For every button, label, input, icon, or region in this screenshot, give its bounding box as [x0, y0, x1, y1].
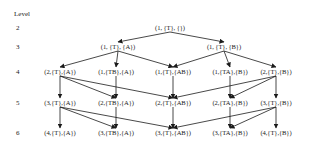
transition-arrow [60, 76, 116, 98]
transition-arrow [118, 32, 170, 42]
state-node: (1,{TA},{B}) [212, 68, 247, 76]
transition-arrow [116, 51, 118, 67]
state-node: (4,{T},{A}) [44, 129, 75, 137]
transition-arrow [60, 76, 173, 98]
transition-arrow [60, 107, 116, 128]
transition-arrow [118, 51, 173, 67]
state-node: (1, {T}, {A}) [101, 43, 135, 51]
state-node: (3,{T},{A}) [44, 99, 75, 107]
state-node: (1, {T}, {}) [155, 24, 185, 32]
state-node: (2,{T},{A}) [44, 68, 75, 76]
state-node: (2,{T},{B}) [261, 68, 292, 76]
state-node: (1,{T},{AB}) [155, 68, 191, 76]
state-node: (2,{TA},{B}) [212, 99, 247, 107]
state-node: (3,{TB},{A}) [98, 129, 134, 137]
transition-arrow [224, 51, 276, 67]
state-node: (2,{TB},{A}) [98, 99, 134, 107]
state-node: (2,{T},{AB}) [155, 99, 191, 107]
state-node: (1,{TB},{A}) [98, 68, 134, 76]
transition-arrow [60, 107, 173, 128]
transition-arrow [224, 51, 230, 67]
transition-arrow [230, 107, 276, 128]
transition-arrow [60, 51, 118, 67]
state-node: (3,{T},{B}) [261, 99, 292, 107]
state-node: (1, {T}, {B}) [207, 43, 241, 51]
state-node: (3,{T},{AB}) [155, 129, 191, 137]
state-node: (3,{TA},{B}) [212, 129, 247, 137]
transition-arrow [170, 32, 224, 42]
transition-arrow [173, 107, 276, 128]
transition-arrow [173, 76, 276, 98]
transition-arrow [173, 51, 224, 67]
transition-arrow [230, 76, 276, 98]
state-node: (4,{T},{B}) [261, 129, 292, 137]
